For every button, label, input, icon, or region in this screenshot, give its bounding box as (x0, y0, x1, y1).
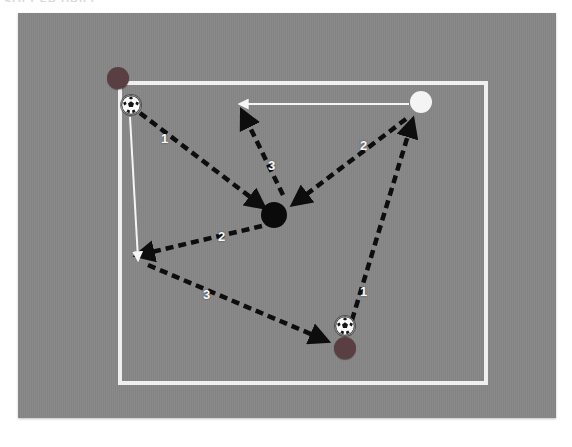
field-panel (18, 13, 556, 418)
sequence-label-2-a4: 2 (218, 230, 225, 243)
sequence-label-2-a3: 2 (360, 139, 367, 152)
ball-bottom-right (335, 316, 355, 336)
bottom-right-player (334, 337, 356, 359)
sequence-label-1-a1: 1 (161, 132, 168, 145)
diagram-stage: SOCCER DRILL 132231 (0, 0, 572, 447)
playing-grid-boundary (118, 81, 488, 385)
ball-top-left (121, 95, 141, 115)
sequence-label-3-a2: 3 (268, 159, 275, 172)
center-player (261, 202, 287, 228)
top-left-player (107, 67, 129, 89)
sequence-label-1-a6: 1 (360, 285, 367, 298)
sequence-label-3-a5: 3 (203, 288, 210, 301)
top-right-player (410, 91, 432, 113)
clipped-header-text: SOCCER DRILL (4, 0, 99, 2)
